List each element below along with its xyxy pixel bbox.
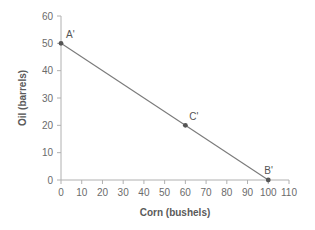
x-tick-label: 50 <box>159 187 171 198</box>
x-tick-label: 40 <box>138 187 150 198</box>
y-tick-label: 20 <box>42 120 54 131</box>
x-tick-label: 0 <box>58 187 64 198</box>
point-label: A' <box>66 29 75 40</box>
y-tick-label: 30 <box>42 93 54 104</box>
y-tick-label: 50 <box>42 38 54 49</box>
point-label: C' <box>189 111 198 122</box>
x-tick-label: 30 <box>118 187 130 198</box>
data-points: A'C'B' <box>59 29 273 182</box>
y-axis-title: Oil (barrels) <box>17 70 28 126</box>
x-tick-label: 20 <box>97 187 109 198</box>
point-label: B' <box>264 165 273 176</box>
x-tick-label: 90 <box>242 187 254 198</box>
y-tick-label: 40 <box>42 65 54 76</box>
data-point <box>183 123 188 128</box>
x-axis-title: Corn (bushels) <box>140 207 211 218</box>
x-tick-label: 10 <box>76 187 88 198</box>
x-tick-label: 70 <box>201 187 213 198</box>
x-tick-label: 60 <box>180 187 192 198</box>
x-tick-label: 80 <box>221 187 233 198</box>
ppf-chart: 0102030405060 0102030405060708090100110 … <box>0 0 315 230</box>
data-point <box>266 178 271 183</box>
data-point <box>59 41 64 46</box>
x-tick-label: 100 <box>260 187 277 198</box>
y-tick-label: 60 <box>42 11 54 22</box>
ppf-line <box>61 43 268 180</box>
x-tick-label: 110 <box>281 187 297 198</box>
y-tick-label: 0 <box>47 175 53 186</box>
y-axis: 0102030405060 <box>42 11 61 186</box>
y-tick-label: 10 <box>42 147 54 158</box>
x-axis: 0102030405060708090100110 <box>58 180 297 198</box>
